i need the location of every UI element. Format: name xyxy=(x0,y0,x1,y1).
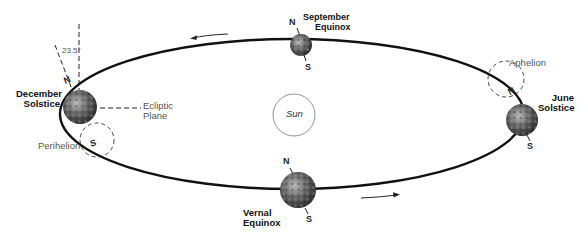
tilt-angle-label: 23.5° xyxy=(62,46,81,56)
sun-label: Sun xyxy=(286,109,303,119)
south-pole-june: S xyxy=(527,141,533,151)
perihelion-label: Perihelion xyxy=(38,141,80,151)
december-solstice-label: December Solstice xyxy=(16,89,60,109)
perihelion-circle xyxy=(80,123,114,157)
september-equinox-label: September Equinox xyxy=(303,12,351,32)
south-pole-vernal: S xyxy=(306,214,312,224)
aphelion-label: Aphelion xyxy=(509,58,546,68)
vernal-equinox-label: Vernal Equinox xyxy=(243,208,280,228)
north-pole-september: N xyxy=(289,17,296,27)
north-pole-vernal: N xyxy=(283,156,290,166)
june-solstice-label: June Solstice xyxy=(538,93,574,113)
arrow-bottom-icon xyxy=(361,192,400,198)
arrow-top-icon xyxy=(190,34,228,40)
south-pole-september: S xyxy=(305,62,311,72)
ecliptic-plane-label: Ecliptic Plane xyxy=(143,101,173,121)
